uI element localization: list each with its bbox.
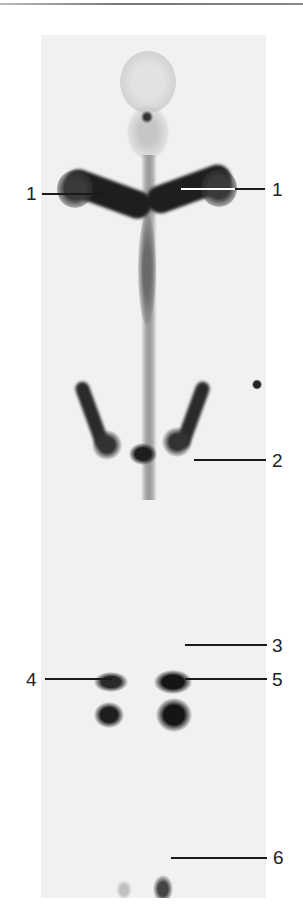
label-3: 3 (272, 636, 283, 655)
bladder (129, 443, 157, 465)
bone-scan-image (41, 35, 266, 898)
right-knee-lower (156, 698, 192, 732)
leader-line-5 (185, 678, 267, 680)
label-2: 2 (272, 451, 283, 470)
leader-line-3 (185, 644, 267, 646)
right-knee-upper (154, 670, 192, 694)
sternum (138, 215, 156, 325)
label-5: 5 (272, 670, 283, 689)
left-shoulder (57, 170, 93, 208)
label-1-right: 1 (272, 180, 283, 199)
ankle-hotspot (153, 875, 173, 898)
label-6: 6 (273, 848, 284, 867)
ankle-left-faint (116, 880, 132, 898)
skull (120, 51, 176, 113)
label-4: 4 (26, 670, 37, 689)
hand-hotspot (252, 379, 262, 390)
leader-line-2 (194, 459, 266, 461)
leader-line-1-right-outer (235, 188, 265, 190)
left-knee-upper (94, 672, 128, 692)
leader-line-4 (45, 678, 112, 680)
leader-line-1-left (42, 193, 108, 195)
right-hip (161, 427, 193, 457)
face-hotspot (141, 110, 153, 124)
leader-line-6 (171, 857, 267, 859)
leader-line-1-right-inner (181, 188, 235, 190)
left-knee-lower (94, 702, 124, 728)
left-hip (91, 430, 123, 460)
top-rule (0, 3, 303, 5)
label-1-left: 1 (26, 184, 37, 203)
